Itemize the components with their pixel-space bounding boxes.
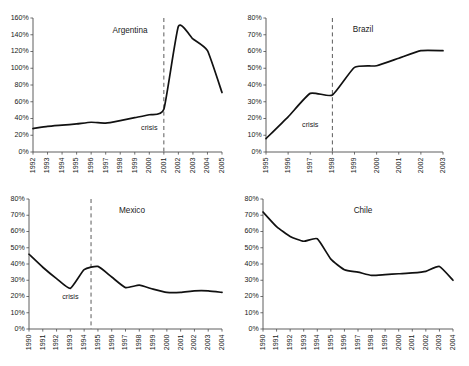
crisis-annotation-label: crisis bbox=[62, 292, 79, 301]
panel-chile-plot: 0%10%20%30%40%50%60%70%80%19901991199219… bbox=[235, 183, 469, 366]
y-tick-label: 80% bbox=[15, 81, 30, 89]
x-tick-label: 1997 bbox=[102, 157, 110, 173]
x-tick-label: 1996 bbox=[108, 334, 116, 350]
x-tick-label: 2001 bbox=[177, 334, 185, 350]
y-tick-label: 70% bbox=[248, 31, 263, 39]
x-tick-label: 2002 bbox=[190, 334, 198, 350]
x-tick-label: 1993 bbox=[66, 334, 74, 350]
y-tick-label: 60% bbox=[245, 227, 260, 235]
x-tick-label: 2005 bbox=[218, 157, 226, 173]
y-tick-label: 30% bbox=[11, 276, 26, 284]
y-tick-label: 50% bbox=[11, 244, 26, 252]
panel-mexico-plot: 0%10%20%30%40%50%60%70%80%19901991199219… bbox=[0, 183, 235, 366]
y-tick-label: 60% bbox=[248, 47, 263, 55]
panel-title-label: Mexico bbox=[119, 206, 145, 215]
y-tick-label: 20% bbox=[11, 292, 26, 300]
y-tick-label: 10% bbox=[248, 131, 263, 139]
data-series-line bbox=[29, 254, 222, 292]
panel-title-label: Chile bbox=[354, 206, 373, 215]
x-tick-label: 2002 bbox=[422, 334, 430, 350]
x-tick-label: 1990 bbox=[25, 334, 33, 350]
x-tick-label: 2001 bbox=[408, 334, 416, 350]
y-tick-label: 80% bbox=[11, 195, 26, 203]
y-tick-label: 20% bbox=[248, 114, 263, 122]
y-tick-label: 50% bbox=[245, 244, 260, 252]
x-tick-label: 1999 bbox=[350, 157, 358, 173]
y-tick-label: 40% bbox=[248, 81, 263, 89]
y-tick-label: 30% bbox=[248, 98, 263, 106]
panel-chile: 0%10%20%30%40%50%60%70%80%19901991199219… bbox=[235, 183, 469, 366]
y-tick-label: 20% bbox=[245, 292, 260, 300]
x-tick-label: 1995 bbox=[72, 157, 80, 173]
x-tick-label: 2004 bbox=[218, 334, 226, 350]
x-tick-label: 1998 bbox=[328, 157, 336, 173]
y-tick-label: 30% bbox=[245, 276, 260, 284]
x-tick-label: 2003 bbox=[189, 157, 197, 173]
y-tick-label: 100% bbox=[11, 64, 30, 72]
x-tick-label: 1999 bbox=[131, 157, 139, 173]
x-tick-label: 1996 bbox=[340, 334, 348, 350]
x-tick-label: 1992 bbox=[52, 334, 60, 350]
panel-title-label: Brazil bbox=[353, 25, 374, 34]
y-tick-label: 80% bbox=[248, 14, 263, 22]
panel-brazil: 0%10%20%30%40%50%60%70%80%19951996199719… bbox=[235, 0, 469, 183]
data-series-line bbox=[266, 50, 443, 138]
x-tick-label: 1995 bbox=[94, 334, 102, 350]
y-tick-label: 140% bbox=[11, 31, 30, 39]
x-tick-label: 1998 bbox=[116, 157, 124, 173]
y-tick-label: 0% bbox=[249, 325, 260, 333]
panel-argentina: 0%20%40%60%80%100%120%140%160%1992199319… bbox=[0, 0, 235, 183]
x-tick-label: 2002 bbox=[417, 157, 425, 173]
x-tick-label: 2000 bbox=[163, 334, 171, 350]
x-tick-label: 1991 bbox=[39, 334, 47, 350]
y-tick-label: 50% bbox=[248, 64, 263, 72]
y-tick-label: 40% bbox=[245, 260, 260, 268]
chart-figure: 0%20%40%60%80%100%120%140%160%1992199319… bbox=[0, 0, 469, 366]
x-tick-label: 2004 bbox=[203, 157, 211, 173]
x-tick-label: 2004 bbox=[449, 334, 457, 350]
crisis-annotation-label: crisis bbox=[302, 120, 319, 129]
x-tick-label: 2002 bbox=[174, 157, 182, 173]
y-tick-label: 10% bbox=[245, 309, 260, 317]
x-tick-label: 1993 bbox=[300, 334, 308, 350]
x-tick-label: 1997 bbox=[306, 157, 314, 173]
y-tick-label: 10% bbox=[11, 309, 26, 317]
x-tick-label: 1992 bbox=[286, 334, 294, 350]
x-tick-label: 2000 bbox=[395, 334, 403, 350]
y-tick-label: 70% bbox=[245, 211, 260, 219]
x-tick-label: 1992 bbox=[29, 157, 37, 173]
x-tick-label: 2003 bbox=[435, 334, 443, 350]
x-tick-label: 1997 bbox=[121, 334, 129, 350]
x-tick-label: 2003 bbox=[439, 157, 447, 173]
crisis-annotation-label: crisis bbox=[141, 123, 158, 132]
x-tick-label: 1999 bbox=[149, 334, 157, 350]
x-tick-label: 1996 bbox=[284, 157, 292, 173]
x-tick-label: 1995 bbox=[262, 157, 270, 173]
x-tick-label: 1994 bbox=[313, 334, 321, 350]
data-series-line bbox=[263, 212, 453, 280]
y-tick-label: 80% bbox=[245, 195, 260, 203]
x-tick-label: 1994 bbox=[80, 334, 88, 350]
x-tick-label: 2001 bbox=[395, 157, 403, 173]
y-tick-label: 0% bbox=[15, 325, 26, 333]
x-tick-label: 1994 bbox=[58, 157, 66, 173]
x-tick-label: 1999 bbox=[381, 334, 389, 350]
panel-title-label: Argentina bbox=[112, 26, 147, 35]
x-tick-label: 1991 bbox=[272, 334, 280, 350]
data-series-line bbox=[33, 25, 222, 128]
y-tick-label: 40% bbox=[15, 114, 30, 122]
y-tick-label: 20% bbox=[15, 131, 30, 139]
x-tick-label: 2000 bbox=[145, 157, 153, 173]
x-tick-label: 1990 bbox=[259, 334, 267, 350]
x-tick-label: 2001 bbox=[160, 157, 168, 173]
panel-brazil-plot: 0%10%20%30%40%50%60%70%80%19951996199719… bbox=[235, 0, 469, 183]
x-tick-label: 1993 bbox=[43, 157, 51, 173]
y-tick-label: 120% bbox=[11, 47, 30, 55]
y-tick-label: 60% bbox=[15, 98, 30, 106]
x-tick-label: 1998 bbox=[135, 334, 143, 350]
y-tick-label: 0% bbox=[252, 148, 263, 156]
panel-mexico: 0%10%20%30%40%50%60%70%80%19901991199219… bbox=[0, 183, 235, 366]
x-tick-label: 1995 bbox=[327, 334, 335, 350]
x-tick-label: 1997 bbox=[354, 334, 362, 350]
x-tick-label: 2000 bbox=[373, 157, 381, 173]
